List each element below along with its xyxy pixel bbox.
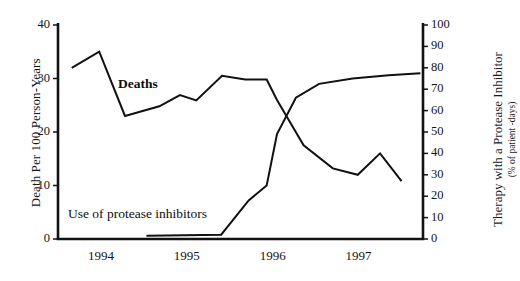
left-axis-tick-label: 0 — [6, 231, 50, 246]
right-axis-tick-label: 90 — [431, 38, 465, 53]
right-axis-tick-label: 30 — [431, 167, 465, 182]
series-line-deaths — [72, 52, 402, 181]
left-axis-tick-label: 10 — [6, 178, 50, 193]
left-axis-tick-label: 30 — [6, 71, 50, 86]
right-axis-tick-label: 0 — [431, 231, 465, 246]
x-axis-tick-label: 1994 — [61, 248, 141, 264]
x-axis-tick-label: 1995 — [147, 248, 227, 264]
right-axis-tick-label: 40 — [431, 145, 465, 160]
chart-figure: Death Per 100 Person-Years Therapy with … — [0, 0, 520, 281]
left-axis-tick-label: 40 — [6, 17, 50, 32]
left-axis-tick-label: 20 — [6, 124, 50, 139]
right-axis-tick-label: 100 — [431, 17, 465, 32]
x-axis-tick-label: 1997 — [319, 248, 399, 264]
x-axis-tick-label: 1996 — [233, 248, 313, 264]
right-axis-tick-label: 80 — [431, 60, 465, 75]
series-label-deaths: Deaths — [118, 76, 158, 92]
right-axis-tick-label: 70 — [431, 81, 465, 96]
right-axis-title-main: Therapy with a Protease Inhibitor — [490, 25, 506, 255]
right-axis-tick-label: 10 — [431, 210, 465, 225]
right-axis-tick-label: 50 — [431, 124, 465, 139]
right-axis-tick-label: 60 — [431, 103, 465, 118]
series-label-protease: Use of protease inhibitors — [68, 206, 207, 222]
right-axis-tick-label: 20 — [431, 188, 465, 203]
right-axis-title-subtitle: (% of patient -days) — [507, 25, 517, 255]
right-axis-title: Therapy with a Protease Inhibitor (% of … — [490, 25, 517, 255]
